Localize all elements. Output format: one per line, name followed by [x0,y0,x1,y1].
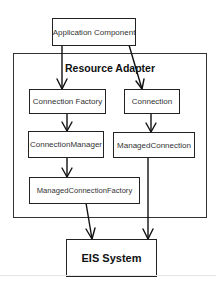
application-component-node: Application Component [52,18,136,46]
arrow-managed-connection-to-eis [143,157,153,239]
connection-label: Connection [132,97,172,106]
managed-connection-factory-node: ManagedConnectionFactory [29,177,140,204]
connection-manager-label: ConnectionManager [30,140,102,149]
connection-manager-node: ConnectionManager [28,131,104,158]
arrow-app-to-connection [129,45,144,89]
eis-system-label: EIS System [82,252,142,264]
arrow-connection-factory-to-connection-manager [62,113,72,131]
eis-system-node: EIS System [66,239,157,277]
connection-node: Connection [124,89,180,114]
managed-connection-node: ManagedConnection [113,132,195,158]
managed-connection-factory-label: ManagedConnectionFactory [37,186,132,195]
connection-factory-node: Connection Factory [29,89,106,114]
arrow-connection-manager-to-mcf [62,157,72,177]
application-component-label: Application Component [53,28,136,37]
connection-factory-label: Connection Factory [33,97,102,106]
arrow-connection-to-managed-connection [146,114,156,132]
arrow-app-to-connection-factory [57,45,67,89]
divider-line [0,275,216,276]
managed-connection-label: ManagedConnection [117,141,191,150]
arrow-mcf-to-eis [86,203,95,239]
